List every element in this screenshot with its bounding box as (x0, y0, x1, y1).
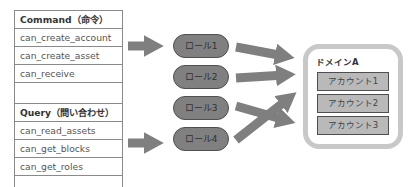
account-3: アカウント3 (317, 116, 389, 135)
account-1: アカウント1 (317, 72, 389, 91)
permission-item: can_create_account (15, 29, 122, 47)
permission-item: can_get_roles (15, 158, 122, 176)
role-2: ロール2 (173, 65, 229, 89)
permission-empty-row (15, 176, 122, 187)
query-permission-table: Query（問い合わせ） can_read_assets can_get_blo… (14, 103, 123, 187)
query-table-header: Query（問い合わせ） (15, 104, 122, 122)
permission-item: can_read_assets (15, 122, 122, 140)
account-2: アカウント2 (317, 94, 389, 113)
command-permission-table: Command（命令） can_create_account can_creat… (14, 10, 123, 103)
domain-title: ドメインA (316, 55, 359, 67)
command-table-header: Command（命令） (15, 11, 122, 29)
arrow-role2-to-account1 (236, 75, 285, 78)
permission-item: can_get_blocks (15, 140, 122, 158)
role-1: ロール1 (173, 34, 229, 58)
arrow-role1-to-domain (236, 47, 284, 56)
role-3: ロール3 (173, 96, 229, 120)
permission-empty-row (15, 83, 122, 103)
permission-item: can_receive (15, 65, 122, 83)
domain-a: ドメインA アカウント1 アカウント2 アカウント3 (303, 44, 403, 149)
permission-item: can_create_asset (15, 47, 122, 65)
role-4: ロール4 (173, 127, 229, 151)
